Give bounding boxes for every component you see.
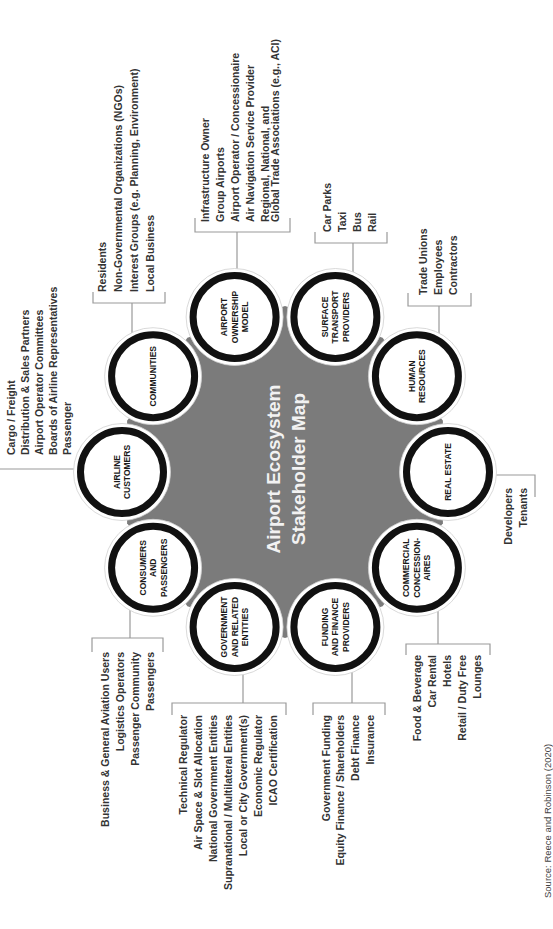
list-item: Passengers xyxy=(144,652,156,711)
list-item: Air Space & Slot Allocation xyxy=(192,715,204,850)
node-label: CONSUMERS xyxy=(138,540,148,596)
list-item: Technical Regulator xyxy=(177,715,189,815)
item-list-funding-finance: Government Funding Equity Finance / Shar… xyxy=(320,715,376,866)
item-list-human-resources: Trade Unions Employees Contractors xyxy=(417,228,459,295)
list-item: Cargo / Freight xyxy=(5,380,17,455)
list-item: Logistics Operators xyxy=(114,652,126,751)
list-item: Air Navigation Service Provider xyxy=(244,65,256,222)
node-label: TRANSPORT xyxy=(330,290,340,344)
node-label: COMMERCIAL xyxy=(401,539,411,598)
node-label: GOVERNMENT xyxy=(219,596,229,658)
list-item: Taxi xyxy=(336,212,348,232)
list-item: Debt Finance xyxy=(349,715,361,781)
node-label: MODEL xyxy=(240,302,250,333)
node-label: PROVIDERS xyxy=(341,292,351,342)
list-item: Non-Governmental Organizations (NGOs) xyxy=(112,85,124,292)
list-item: Retail / Duty Free xyxy=(456,655,468,741)
list-item: Trade Unions xyxy=(417,228,429,295)
list-item: Local Business xyxy=(144,215,156,292)
list-item: Airport Operator Committees xyxy=(33,310,45,455)
list-item: Residents xyxy=(96,242,108,292)
list-item: Infrastructure Owner xyxy=(199,118,211,222)
source-text: Source: Reece and Robinson (2020) xyxy=(542,744,553,898)
item-list-airline-customers: Cargo / Freight Distribution & Sales Par… xyxy=(5,287,73,455)
node-label: ENTITIES xyxy=(240,608,250,647)
list-item: Economic Regulator xyxy=(252,715,264,817)
stakeholder-node-funding-finance: FUNDING AND FINANCE PROVIDERS xyxy=(294,586,377,669)
stakeholder-node-surface-transport: SURFACE TRANSPORT PROVIDERS xyxy=(294,276,377,359)
stakeholder-node-human-resources: HUMAN RESOURCES xyxy=(375,335,458,418)
title-line-1: Airport Ecosystem xyxy=(263,385,284,554)
stakeholder-node-consumers-passengers: CONSUMERS AND PASSENGERS xyxy=(112,526,195,609)
list-item: Group Airports xyxy=(214,147,226,222)
list-item: National Government Entities xyxy=(207,715,219,862)
item-list-communities: Residents Non-Governmental Organizations… xyxy=(96,69,156,292)
list-item: Passenger Community xyxy=(129,652,141,766)
node-label: AIRPORT xyxy=(219,297,229,336)
node-label: PASSENGERS xyxy=(159,538,169,597)
list-item: Rail xyxy=(366,213,378,232)
list-item: Interest Groups (e.g. Planning, Environm… xyxy=(128,69,140,292)
list-item: Supranational / Multilateral Entities xyxy=(222,715,234,890)
list-item: Business & General Aviation Users xyxy=(99,652,111,827)
node-label: CUSTOMERS xyxy=(122,445,132,499)
node-label: PROVIDERS xyxy=(341,602,351,652)
node-label: AND RELATED xyxy=(230,597,240,657)
item-list-consumers-passengers: Business & General Aviation Users Logist… xyxy=(99,652,156,827)
source-caption: Source: Reece and Robinson (2020) xyxy=(542,744,553,898)
list-item: Government Funding xyxy=(320,715,332,821)
list-item: Boards of Airline Representatives xyxy=(47,287,59,455)
list-item: Lounges xyxy=(471,655,483,699)
list-item: Bus xyxy=(351,212,363,232)
item-list-real-estate: Developers Tenants xyxy=(502,488,529,545)
node-label: AIRLINE xyxy=(112,455,122,489)
node-label: AND xyxy=(148,559,158,577)
node-label: CONCESSION- xyxy=(412,538,422,598)
list-item: Equity Finance / Shareholders xyxy=(334,715,346,866)
stakeholder-node-government: GOVERNMENT AND RELATED ENTITIES xyxy=(193,586,276,669)
stakeholder-node-airline-customers: AIRLINE CUSTOMERS xyxy=(81,431,164,514)
stakeholder-node-real-estate: REAL ESTATE xyxy=(407,431,490,514)
stakeholder-map-diagram: Airport Ecosystem Stakeholder Map REAL E… xyxy=(0,0,553,929)
list-item: Car Parks xyxy=(321,183,333,232)
node-label: AND FINANCE xyxy=(330,597,340,656)
list-item: Hotels xyxy=(441,655,453,687)
list-item: Tenants xyxy=(517,488,529,528)
list-item: Airport Operator / Concessionaire xyxy=(229,53,241,222)
stakeholder-node-airport-ownership: AIRPORT OWNERSHIP MODEL xyxy=(193,276,276,359)
list-item: Passenger xyxy=(61,402,73,455)
stakeholder-map-figure: Airport Ecosystem Stakeholder Map REAL E… xyxy=(0,0,553,929)
item-list-commercial-concessionaires: Food & Beverage Car Rental Hotels Retail… xyxy=(411,655,483,742)
item-list-government: Technical Regulator Air Space & Slot All… xyxy=(177,715,279,890)
title-line-2: Stakeholder Map xyxy=(288,393,309,545)
list-item-continuation: Global Trade Associations (e.g., ACI) xyxy=(269,39,281,222)
node-label: RESOURCES xyxy=(417,349,427,403)
stakeholder-node-communities: COMMUNITIES xyxy=(112,335,195,418)
item-list-surface-transport: Car Parks Taxi Bus Rail xyxy=(321,183,378,232)
list-item: Distribution & Sales Partners xyxy=(19,310,31,455)
item-list-airport-ownership: Infrastructure Owner Group Airports Airp… xyxy=(199,39,281,222)
list-item: ICAO Certification xyxy=(267,715,279,805)
stakeholder-node-commercial-concessionaires: COMMERCIAL CONCESSION- AIRES xyxy=(375,526,458,609)
node-label: AIRES xyxy=(422,554,432,580)
node-label: OWNERSHIP xyxy=(230,290,240,343)
list-item: Local or City Government(s) xyxy=(237,715,249,856)
node-label: FUNDING xyxy=(320,607,330,646)
node-label: COMMUNITIES xyxy=(148,346,158,407)
list-item: Food & Beverage xyxy=(411,655,423,742)
node-label: REAL ESTATE xyxy=(443,443,453,501)
list-item: Insurance xyxy=(364,715,376,765)
node-label: HUMAN xyxy=(407,360,417,392)
list-item: Car Rental xyxy=(426,655,438,708)
list-item: Developers xyxy=(502,488,514,545)
list-item: Contractors xyxy=(447,235,459,295)
list-item: Employees xyxy=(432,239,444,295)
node-label: SURFACE xyxy=(320,296,330,337)
